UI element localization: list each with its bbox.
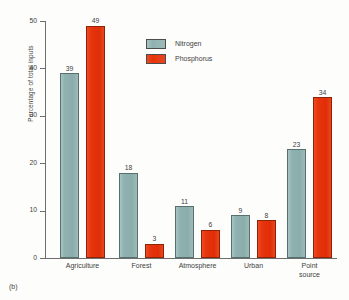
y-tick-label-0: 0 — [16, 255, 37, 262]
bar-value-phosphorus-agriculture: 49 — [92, 18, 100, 25]
y-tick-label-10: 10 — [16, 207, 37, 214]
bar-value-phosphorus-urban: 8 — [265, 213, 269, 220]
legend-label-phosphorus: Phosphorus — [175, 55, 212, 62]
y-tick-label-30: 30 — [16, 112, 37, 119]
bar-phosphorus-forest[interactable]: 3 — [145, 244, 164, 258]
bar-nitrogen-point-source[interactable]: 23 — [287, 149, 306, 258]
y-axis-title: Percentage of total inputs — [27, 0, 34, 174]
bar-nitrogen-forest[interactable]: 18 — [119, 173, 138, 258]
legend-swatch-phosphorus — [146, 54, 166, 64]
bar-phosphorus-atmosphere[interactable]: 6 — [201, 230, 220, 258]
bar-nitrogen-atmosphere[interactable]: 11 — [175, 206, 194, 258]
bar-value-phosphorus-point-source: 34 — [319, 90, 327, 97]
bar-phosphorus-point-source[interactable]: 34 — [313, 97, 332, 258]
legend-item-phosphorus: Phosphorus — [146, 52, 212, 65]
y-tick-label-20: 20 — [16, 160, 37, 167]
legend-swatch-nitrogen — [146, 39, 166, 49]
bar-nitrogen-urban[interactable]: 9 — [231, 215, 250, 258]
bar-phosphorus-agriculture[interactable]: 49 — [86, 26, 105, 258]
y-tick-label-40: 40 — [16, 65, 37, 72]
bar-group-point-source: 2334 — [287, 21, 332, 258]
figure-caption: (b) — [9, 283, 18, 290]
x-axis-line — [45, 258, 337, 259]
y-tick-0 — [40, 258, 46, 259]
figure-bar-chart: Percentage of total inputs 01020304050 3… — [0, 0, 349, 300]
bar-value-phosphorus-atmosphere: 6 — [209, 222, 213, 229]
bar-value-nitrogen-agriculture: 39 — [66, 66, 74, 73]
bar-group-agriculture: 3949 — [60, 21, 105, 258]
bar-value-phosphorus-forest: 3 — [153, 236, 157, 243]
legend-label-nitrogen: Nitrogen — [175, 40, 201, 47]
bar-nitrogen-agriculture[interactable]: 39 — [60, 73, 79, 258]
y-tick-label-50: 50 — [16, 18, 37, 25]
bar-group-urban: 98 — [231, 21, 276, 258]
bar-value-nitrogen-atmosphere: 11 — [181, 199, 188, 206]
bar-value-nitrogen-point-source: 23 — [293, 142, 301, 149]
chart-legend: Nitrogen Phosphorus — [146, 37, 212, 67]
x-axis-label-point-source: Point source — [275, 262, 344, 279]
bar-phosphorus-urban[interactable]: 8 — [257, 220, 276, 258]
bar-value-nitrogen-urban: 9 — [239, 208, 243, 215]
bar-value-nitrogen-forest: 18 — [125, 165, 133, 172]
legend-item-nitrogen: Nitrogen — [146, 37, 212, 50]
